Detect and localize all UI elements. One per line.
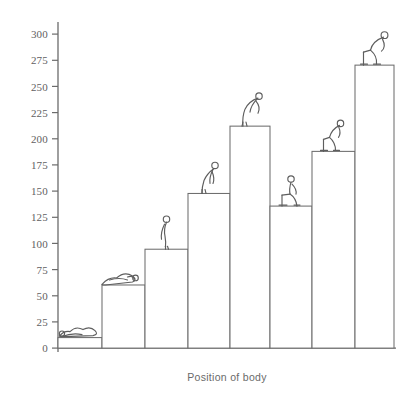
y-tick-label: 75	[37, 264, 49, 276]
bar-2[interactable]: lying prone / reclining: 60	[102, 285, 145, 348]
y-tick-label: 25	[37, 316, 49, 328]
chart-svg: 300 275 250 225 200 175 150 125 100 75 5…	[0, 0, 414, 399]
y-tick-label: 150	[31, 185, 48, 197]
person-lying-prone-icon	[102, 274, 138, 285]
bar-4[interactable]: bending forward: 147	[188, 193, 230, 348]
person-sitting-icon	[279, 176, 300, 206]
bar-6[interactable]: sitting: 135	[270, 206, 312, 348]
bar-7[interactable]: sitting bent forward: 187	[312, 151, 355, 348]
y-tick-label: 200	[31, 133, 48, 145]
y-tick-label: 50	[37, 290, 49, 302]
person-lying-supine-icon	[59, 328, 96, 337]
y-tick-label: 275	[31, 54, 48, 66]
bar-1[interactable]: lying supine: 10	[58, 338, 102, 349]
y-tick-label: 250	[31, 81, 48, 93]
y-axis-tick-labels: 300 275 250 225 200 175 150 125 100 75 5…	[31, 28, 48, 354]
bar-group: lying supine: 10lying prone / reclining:…	[58, 65, 394, 348]
y-tick-label: 100	[31, 238, 48, 250]
y-tick-label: 125	[31, 211, 48, 223]
person-standing-icon	[161, 216, 169, 249]
y-tick-label: 300	[31, 28, 48, 40]
bar-3[interactable]: standing: 94	[145, 249, 188, 348]
y-tick-label: 175	[31, 159, 48, 171]
x-axis-caption: Position of body	[187, 371, 267, 383]
person-sitting-bent-icon	[321, 120, 344, 151]
bar-8[interactable]: sitting deep bent forward: 269	[355, 65, 394, 348]
y-axis-ticks	[52, 34, 58, 348]
y-axis: 300 275 250 225 200 175 150 125 100 75 5…	[31, 22, 58, 354]
bar-5[interactable]: bending deep forward: 211	[230, 126, 270, 348]
person-bending-forward-icon	[202, 162, 218, 193]
bar-chart: 300 275 250 225 200 175 150 125 100 75 5…	[0, 0, 414, 399]
person-bending-deep-icon	[242, 93, 262, 126]
y-tick-label: 225	[31, 107, 48, 119]
y-tick-label: 0	[42, 342, 48, 354]
person-sitting-deep-bent-icon	[361, 32, 388, 65]
